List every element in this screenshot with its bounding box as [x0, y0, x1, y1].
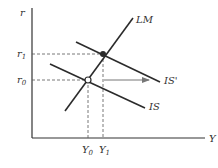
is-prime-label: IS' — [163, 75, 178, 86]
r0-label: r0 — [17, 74, 27, 87]
x-axis-label: Y — [209, 133, 217, 144]
y-axis-label: r — [20, 7, 26, 18]
is-prime-curve — [76, 42, 160, 82]
new-equilibrium-point — [100, 51, 106, 57]
is-label: IS — [148, 101, 160, 112]
is-curve — [50, 64, 145, 108]
y1-label: Y1 — [99, 144, 110, 157]
lm-label: LM — [135, 14, 154, 25]
is-lm-diagram: r Y r1 r0 Y0 Y1 LM IS' IS — [0, 0, 218, 168]
initial-equilibrium-point — [85, 77, 91, 83]
r1-label: r1 — [17, 48, 26, 61]
y0-label: Y0 — [82, 144, 94, 157]
